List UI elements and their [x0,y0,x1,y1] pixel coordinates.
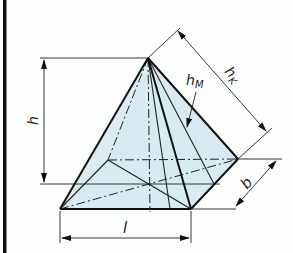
page-border-left [3,0,7,253]
label-h: h [25,116,41,125]
label-l: l [123,219,128,237]
label-hk: h K [220,63,245,88]
label-hm: h M [186,72,204,90]
label-b: b [237,174,257,193]
pyramid-diagram: h l b h K h M [0,0,293,253]
label-hm-sub: M [195,79,204,90]
label-hm-main: h [186,72,195,88]
